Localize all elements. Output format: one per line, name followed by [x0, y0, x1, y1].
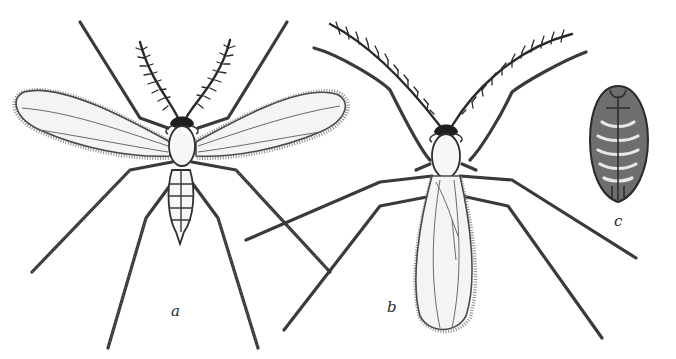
specimen-a-antennae — [136, 40, 235, 118]
specimen-label-c: c — [614, 212, 622, 230]
specimen-b-thorax — [432, 134, 460, 178]
specimen-a-left-wing — [14, 90, 170, 158]
specimen-b-folded-wings — [415, 176, 475, 332]
specimen-a — [14, 22, 348, 348]
specimen-c-pupa — [590, 86, 648, 202]
specimen-label-b: b — [387, 298, 397, 316]
specimen-label-a: a — [171, 302, 180, 320]
specimen-a-right-wing — [196, 91, 348, 158]
specimen-a-thorax — [169, 126, 195, 166]
illustration-plate — [0, 0, 676, 359]
specimen-b — [246, 22, 636, 338]
